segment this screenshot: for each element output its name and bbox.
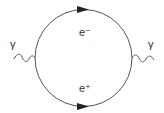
photon-left-wavy-line [14, 54, 35, 61]
electron-label: e⁻ [79, 26, 91, 38]
photon-right-label: γ [148, 38, 154, 50]
photon-left-label: γ [10, 38, 16, 50]
photon-right-wavy-line [132, 55, 154, 62]
arrow-right-icon [77, 6, 89, 13]
feynman-diagram: γ γ e⁻ e⁺ [0, 0, 164, 113]
arrow-right-icon [77, 103, 89, 110]
positron-label: e⁺ [79, 82, 91, 94]
